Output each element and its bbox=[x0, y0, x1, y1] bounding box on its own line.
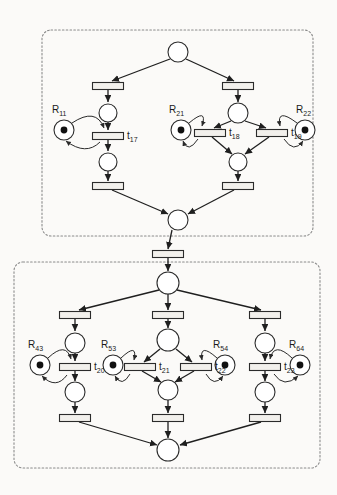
resource-arc-rarc-R21-in bbox=[183, 139, 198, 147]
label-sub-label-t23: 23 bbox=[287, 367, 295, 374]
label-label-t17: t17 bbox=[127, 130, 138, 143]
label-sub-label-R21: 21 bbox=[176, 110, 184, 117]
label-label-t18: t18 bbox=[229, 127, 240, 140]
transition-t20[interactable] bbox=[60, 364, 91, 371]
transition-t-top-l2[interactable] bbox=[93, 183, 124, 190]
label-label-t21: t21 bbox=[159, 361, 170, 374]
resource-arc-rarc-R21-out bbox=[189, 116, 203, 126]
label-sub-label-t22: 22 bbox=[218, 367, 226, 374]
place-p-bot-right-a[interactable] bbox=[255, 333, 275, 353]
label-base-label-R22: R bbox=[296, 104, 303, 115]
label-base-label-R53: R bbox=[101, 339, 108, 350]
label-sub-label-t19: 19 bbox=[294, 133, 302, 140]
label-base-label-R54: R bbox=[213, 339, 220, 350]
label-sub-label-R64: 64 bbox=[296, 345, 304, 352]
place-p-top-mid-b[interactable] bbox=[229, 153, 247, 171]
label-sub-label-t17: 17 bbox=[130, 136, 138, 143]
subnet-boundaries bbox=[14, 30, 320, 468]
resource-arc-rarc-R11-in bbox=[66, 141, 100, 149]
label-base-label-R21: R bbox=[169, 104, 176, 115]
transition-t23[interactable] bbox=[250, 364, 281, 371]
label-label-R53: R53 bbox=[101, 339, 116, 352]
arc-arc-t22-to-bpmb bbox=[175, 371, 194, 382]
token-p-res-R11 bbox=[61, 127, 68, 134]
arc-arc-sink-to-link bbox=[168, 230, 172, 249]
label-sub-label-R11: 11 bbox=[59, 110, 66, 117]
place-p-bot-mid-b[interactable] bbox=[158, 380, 178, 400]
label-sub-label-t21: 21 bbox=[162, 367, 170, 374]
place-p-bot-sink[interactable] bbox=[157, 439, 179, 461]
arc-arc-t21-to-bpmb bbox=[142, 371, 161, 382]
place-p-bot-mid-a[interactable] bbox=[157, 329, 179, 351]
token-p-res-R64 bbox=[297, 362, 304, 369]
place-p-top-sink[interactable] bbox=[168, 210, 188, 230]
token-p-res-R43 bbox=[37, 362, 44, 369]
label-base-label-R43: R bbox=[28, 339, 35, 350]
transition-t-top-r2[interactable] bbox=[223, 183, 254, 190]
token-p-res-R53 bbox=[110, 362, 117, 369]
resource-arc-rarc-R64-out bbox=[270, 350, 292, 359]
label-sub-label-R54: 54 bbox=[220, 345, 228, 352]
label-label-R64: R64 bbox=[289, 339, 304, 352]
arc-arc-t19-to-pmb bbox=[245, 137, 269, 154]
place-p-bot-right-b[interactable] bbox=[255, 382, 275, 402]
place-p-bot-source[interactable] bbox=[157, 272, 179, 294]
resource-arc-rarc-R54-in bbox=[206, 374, 223, 382]
label-sub-label-R22: 22 bbox=[303, 110, 311, 117]
transition-t-bot-m2[interactable] bbox=[153, 415, 184, 422]
arc-arc-t18-to-pmb bbox=[212, 137, 232, 154]
transition-t-bot-l1[interactable] bbox=[60, 312, 91, 319]
petri-net-diagram: R11R21R22t17t18t19R43R53R54R64t20t21t22t… bbox=[0, 0, 337, 495]
arc-arc-bl2-to-bsink bbox=[79, 422, 157, 445]
arc-arc-bsrc-to-bl1 bbox=[79, 290, 159, 310]
label-label-R22: R22 bbox=[296, 104, 311, 117]
place-p-top-source[interactable] bbox=[168, 42, 188, 62]
resource-arc-rarc-R53-in bbox=[115, 374, 130, 382]
transition-t-bot-r1[interactable] bbox=[250, 312, 281, 319]
arc-arc-tr2-to-sink bbox=[188, 190, 234, 214]
label-sub-label-R53: 53 bbox=[108, 345, 116, 352]
transition-t18[interactable] bbox=[195, 130, 226, 137]
resource-arc-rarc-R54-out bbox=[202, 350, 217, 360]
label-base-label-R11: R bbox=[52, 104, 59, 115]
resource-arc-rarc-R43-in bbox=[42, 375, 67, 383]
label-label-R43: R43 bbox=[28, 339, 43, 352]
arc-arc-tl2-to-sink bbox=[112, 190, 168, 214]
token-p-res-R22 bbox=[302, 127, 309, 134]
transition-t-bot-m1[interactable] bbox=[153, 312, 184, 319]
label-sub-label-t18: 18 bbox=[232, 133, 240, 140]
label-sub-label-t20: 20 bbox=[97, 367, 105, 374]
transition-t-top-l1[interactable] bbox=[93, 83, 124, 90]
transition-t19[interactable] bbox=[257, 130, 288, 137]
transition-t-bot-r2[interactable] bbox=[250, 415, 281, 422]
label-label-R11: R11 bbox=[52, 104, 67, 117]
resource-arc-rarc-R11-out bbox=[72, 116, 104, 128]
arc-arc-br2-to-bsink bbox=[180, 422, 261, 445]
resource-arc-rarc-R64-in bbox=[274, 374, 298, 382]
transition-t-link[interactable] bbox=[153, 251, 184, 258]
place-p-top-mid-a[interactable] bbox=[228, 103, 248, 123]
label-label-R54: R54 bbox=[213, 339, 228, 352]
label-label-R21: R21 bbox=[169, 104, 184, 117]
arc-arc-bsrc-to-br1 bbox=[177, 290, 261, 310]
arc-arc-pma-to-t19 bbox=[245, 121, 266, 128]
place-p-bot-left-a[interactable] bbox=[65, 333, 85, 353]
place-p-top-left-a[interactable] bbox=[99, 104, 117, 122]
label-sub-label-R43: 43 bbox=[35, 345, 43, 352]
arc-arc-bpma-to-t21 bbox=[144, 349, 160, 362]
arc-arc-bpma-to-t22 bbox=[176, 349, 192, 362]
transition-t21[interactable] bbox=[125, 364, 156, 371]
place-p-bot-left-b[interactable] bbox=[65, 382, 85, 402]
transition-t22[interactable] bbox=[181, 364, 212, 371]
resource-arc-rarc-R22-out bbox=[279, 116, 297, 126]
transition-t-bot-l2[interactable] bbox=[60, 415, 91, 422]
resource-arc-rarc-R53-out bbox=[121, 350, 135, 360]
resource-arc-rarc-R43-out bbox=[48, 350, 71, 359]
resource-arc-rarc-R22-in bbox=[284, 139, 303, 147]
arc-arc-src-to-tl1 bbox=[112, 59, 170, 81]
transition-t17[interactable] bbox=[93, 133, 124, 140]
arc-arc-src-to-tr1 bbox=[186, 59, 234, 81]
place-p-top-left-b[interactable] bbox=[99, 153, 117, 171]
transition-t-top-r1[interactable] bbox=[223, 83, 254, 90]
label-base-label-R64: R bbox=[289, 339, 296, 350]
